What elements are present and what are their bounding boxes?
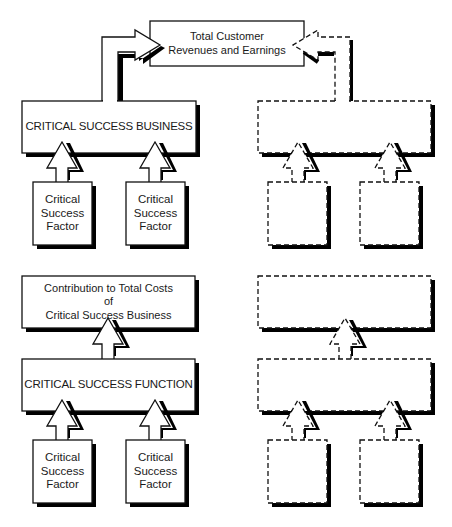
factor-label-lower-2: Critical Success Factor: [126, 440, 185, 503]
factor-line3: Factor: [139, 478, 172, 492]
contribution-label: Contribution to Total Costs of Critical …: [22, 276, 195, 328]
factor-line2: Success: [134, 465, 177, 479]
factor-line1: Critical: [138, 193, 173, 207]
dashed-business-box: [258, 101, 435, 157]
dashed-factor-box-lower-2: [360, 440, 423, 507]
factor-line1: Critical: [138, 451, 173, 465]
factor-line3: Factor: [139, 220, 172, 234]
critical-success-function-label: CRITICAL SUCCESS FUNCTION: [22, 359, 195, 411]
factor-label-upper-2: Critical Success Factor: [126, 182, 185, 245]
factor-line2: Success: [41, 207, 84, 221]
dashed-factor-box-upper-2: [360, 182, 423, 249]
factor-line2: Success: [134, 207, 177, 221]
contribution-line1: Contribution to Total Costs: [44, 282, 173, 295]
total-customer-revenues-label: Total Customer Revenues and Earnings: [150, 21, 304, 66]
factor-line3: Factor: [46, 478, 79, 492]
factor-label-lower-1: Critical Success Factor: [33, 440, 92, 503]
dashed-factor-box-upper-1: [268, 182, 331, 249]
critical-success-business-label: CRITICAL SUCCESS BUSINESS: [22, 101, 196, 153]
factor-line1: Critical: [45, 451, 80, 465]
total-customer-line1: Total Customer: [190, 30, 264, 43]
factor-line1: Critical: [45, 193, 80, 207]
factor-label-upper-1: Critical Success Factor: [33, 182, 92, 245]
factor-line2: Success: [41, 465, 84, 479]
contribution-line2: of: [104, 295, 113, 308]
total-customer-line2: Revenues and Earnings: [168, 44, 285, 57]
dashed-function-box: [258, 359, 435, 415]
factor-line3: Factor: [46, 220, 79, 234]
dashed-factor-box-lower-1: [268, 440, 331, 507]
contribution-line3: Critical Success Business: [46, 309, 172, 322]
